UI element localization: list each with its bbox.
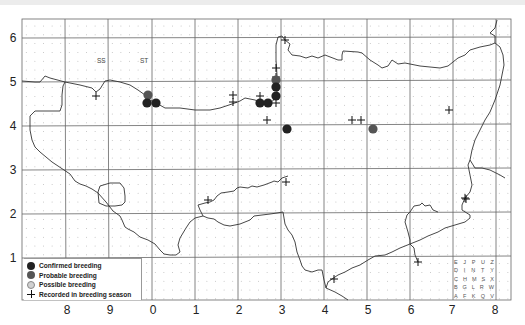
tetrad-letter: Q (481, 292, 485, 300)
tetrad-letter: L (472, 283, 475, 291)
plus-icon (282, 178, 290, 186)
possible-breeding-icon (27, 281, 35, 289)
x-axis-label: 9 (103, 303, 117, 317)
tetrad-letter: A (454, 292, 458, 300)
probable-breeding-icon (27, 271, 35, 279)
legend-item-confirmed: Confirmed breeding (27, 261, 141, 271)
tetrad-letter: I (464, 266, 466, 274)
tetrad-letter: K (472, 292, 476, 300)
y-axis-label: 1 (8, 251, 18, 265)
plus-icon (357, 116, 365, 124)
legend-item-season: Recorded in breeding season (27, 290, 141, 300)
legend-label: Recorded in breeding season (39, 291, 131, 298)
tetrad-letter: Z (491, 258, 494, 266)
tetrad-letter: N (471, 266, 475, 274)
x-axis-label: 2 (232, 303, 246, 317)
tetrad-key-row: BGLRW (454, 283, 494, 291)
plus-icon (263, 116, 271, 124)
plus-icon (272, 64, 280, 72)
plus-icon (229, 91, 237, 99)
y-axis-label: 6 (8, 31, 18, 45)
tetrad-letter: T (481, 266, 484, 274)
tetrad-key-row: CHMSX (454, 275, 494, 283)
tetrad-key-row: AFKQV (454, 292, 494, 300)
grid-square-label: ST (140, 57, 148, 64)
tetrad-letter: H (463, 275, 467, 283)
tetrad-letter: V (490, 292, 494, 300)
record-marker (143, 90, 152, 99)
tetrad-key: EJPUZDINTYCHMSXBGLRWAFKQV (454, 258, 494, 300)
tetrad-letter: C (454, 275, 458, 283)
tetrad-letter: F (463, 292, 466, 300)
record-marker (142, 98, 151, 107)
legend: Confirmed breeding Probable breeding Pos… (24, 258, 142, 300)
record-marker (151, 98, 160, 107)
record-marker (368, 124, 377, 133)
tetrad-letter: R (480, 283, 484, 291)
x-axis-label: 8 (488, 303, 502, 317)
tetrad-key-row: DINTY (454, 266, 494, 274)
y-axis-label: 4 (8, 119, 18, 133)
x-axis-label: 4 (318, 303, 332, 317)
record-marker (282, 124, 291, 133)
record-marker (271, 82, 280, 91)
tetrad-letter: U (481, 258, 485, 266)
plus-icon (445, 106, 453, 114)
tetrad-letter: E (454, 258, 458, 266)
tetrad-letter: M (472, 275, 477, 283)
legend-item-possible: Possible breeding (27, 280, 141, 290)
legend-label: Possible breeding (39, 281, 96, 288)
grid-square-label: SS (97, 57, 106, 64)
y-axis-label: 3 (8, 163, 18, 177)
x-axis-label: 5 (361, 303, 375, 317)
legend-label: Probable breeding (39, 272, 97, 279)
tetrad-key-row: EJPUZ (454, 258, 494, 266)
plus-icon (414, 258, 422, 266)
tetrad-letter: B (454, 283, 458, 291)
x-axis-label: 3 (275, 303, 289, 317)
tetrad-letter: P (472, 258, 476, 266)
plus-icon (92, 92, 100, 100)
plus-icon (27, 290, 35, 298)
x-axis-label: 8 (60, 303, 74, 317)
x-axis-label: 1 (189, 303, 203, 317)
plus-icon (348, 116, 356, 124)
x-axis-label: 0 (146, 303, 160, 317)
tetrad-letter: X (490, 275, 494, 283)
tetrad-letter: J (463, 258, 466, 266)
record-marker (255, 98, 264, 107)
legend-item-probable: Probable breeding (27, 271, 141, 281)
tetrad-letter: W (489, 283, 494, 291)
tetrad-letter: D (454, 266, 458, 274)
legend-label: Confirmed breeding (39, 262, 102, 269)
record-marker (271, 91, 280, 100)
tetrad-letter: Y (490, 266, 494, 274)
record-marker (263, 98, 272, 107)
x-axis-label: 6 (404, 303, 418, 317)
y-axis-label: 2 (8, 207, 18, 221)
confirmed-breeding-icon (27, 262, 35, 270)
x-axis-label: 7 (445, 303, 459, 317)
tetrad-letter: S (482, 275, 486, 283)
tetrad-letter: G (463, 283, 467, 291)
y-axis-label: 5 (8, 75, 18, 89)
